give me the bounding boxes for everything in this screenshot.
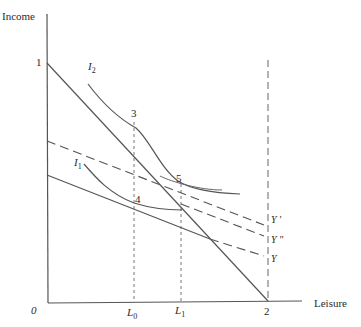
budget-line-main bbox=[47, 63, 268, 301]
origin-label: 0 bbox=[31, 304, 37, 316]
x-axis bbox=[48, 301, 302, 303]
point-5-label: 5 bbox=[176, 172, 182, 184]
y-label: Y bbox=[271, 253, 278, 264]
x-axis-label: Leisure bbox=[314, 297, 347, 309]
endowment-label: 2 bbox=[264, 305, 270, 317]
y-axis bbox=[47, 14, 48, 303]
I1-label: I1 bbox=[73, 156, 82, 171]
point-4-label: 4 bbox=[135, 193, 141, 205]
L1-label: L1 bbox=[174, 304, 185, 319]
y-axis-label: Income bbox=[2, 10, 35, 22]
point-3-label: 3 bbox=[131, 107, 137, 119]
I2-label: I2 bbox=[87, 60, 96, 75]
y-double-prime-label: Y " bbox=[271, 234, 284, 245]
y-prime-label: Y ' bbox=[271, 214, 282, 225]
L0-label: L0 bbox=[126, 306, 137, 321]
y-intercept-label: 1 bbox=[36, 56, 42, 68]
labor-leisure-diagram: Income Leisure 0 1 2 L0 L1 I2 I1 3 4 5 Y… bbox=[0, 0, 361, 327]
